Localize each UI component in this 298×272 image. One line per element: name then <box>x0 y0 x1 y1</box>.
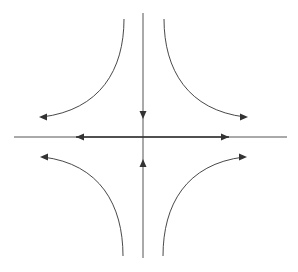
background <box>0 0 298 272</box>
saddle-phase-portrait <box>0 0 298 272</box>
